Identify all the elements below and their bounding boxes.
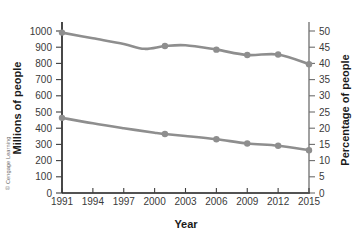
y-tick-label-right: 40 [319, 58, 331, 69]
y-tick-label-left: 1000 [30, 26, 53, 37]
y-tick-label-right: 15 [319, 139, 331, 150]
y-tick-label-left: 200 [35, 155, 52, 166]
y-tick-label-left: 400 [35, 123, 52, 134]
y-tick-label-right: 5 [319, 171, 325, 182]
y-tick-label-left: 800 [35, 58, 52, 69]
series-marker [59, 29, 65, 35]
series-marker [59, 115, 65, 121]
series-marker [213, 46, 219, 52]
x-tick-label: 2000 [144, 196, 167, 207]
x-tick-label: 2009 [236, 196, 259, 207]
y-tick-label-left: 300 [35, 139, 52, 150]
y-tick-label-right: 25 [319, 107, 331, 118]
series-marker [306, 147, 312, 153]
y-tick-label-left: 500 [35, 107, 52, 118]
x-tick-label: 1991 [51, 196, 74, 207]
y-tick-label-left: 100 [35, 171, 52, 182]
series-marker [275, 51, 281, 57]
y-axis-left-title: Millions of people [11, 62, 23, 155]
x-tick-label: 1994 [82, 196, 105, 207]
x-tick-label: 2015 [298, 196, 321, 207]
series-marker [306, 61, 312, 67]
copyright-credit: © Cengage Learning [5, 136, 11, 190]
series-marker [162, 131, 168, 137]
y-axis-right-title: Percentage of people [339, 54, 351, 165]
series-marker [162, 43, 168, 49]
y-tick-label-right: 30 [319, 90, 331, 101]
x-axis-title: Year [174, 218, 198, 230]
y-tick-label-right: 35 [319, 74, 331, 85]
y-tick-label-left: 700 [35, 74, 52, 85]
chart-figure: 01002003004005006007008009001000 0510152… [0, 0, 363, 238]
x-tick-label: 2006 [205, 196, 228, 207]
y-tick-label-right: 50 [319, 26, 331, 37]
y-tick-label-left: 900 [35, 42, 52, 53]
dual-axis-line-chart: 01002003004005006007008009001000 0510152… [0, 0, 363, 238]
y-tick-label-right: 10 [319, 155, 331, 166]
y-tick-label-left: 600 [35, 90, 52, 101]
x-tick-label: 2003 [174, 196, 197, 207]
series-marker [244, 52, 250, 58]
series-marker [244, 140, 250, 146]
series-marker [213, 136, 219, 142]
x-tick-label: 1997 [113, 196, 136, 207]
series-marker [275, 143, 281, 149]
y-tick-label-right: 20 [319, 123, 331, 134]
x-tick-label: 2012 [267, 196, 290, 207]
y-tick-label-right: 45 [319, 42, 331, 53]
